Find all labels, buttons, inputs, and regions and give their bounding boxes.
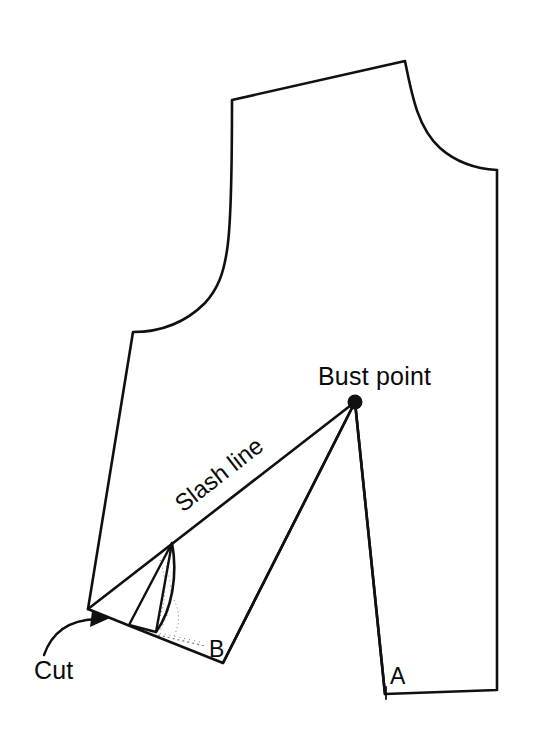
pattern-diagram-canvas: Bust point Slash line Cut B A (0, 0, 533, 746)
pattern-diagram-svg: Bust point Slash line Cut B A (0, 0, 533, 746)
cut-arrow-icon (44, 611, 110, 655)
point-a-label: A (390, 663, 406, 689)
cut-label: Cut (34, 656, 74, 684)
bust-point-label: Bust point (318, 362, 431, 390)
point-b-label: B (209, 636, 224, 662)
bust-point-dot (348, 395, 363, 410)
cut-arrow-shaft (44, 619, 96, 655)
